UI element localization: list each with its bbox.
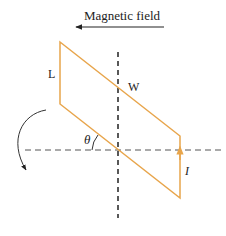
magnetic-field-label: Magnetic field: [84, 8, 161, 23]
current-label: I: [184, 164, 190, 178]
length-label: L: [48, 67, 55, 81]
rotation-arrow-icon: [18, 110, 46, 170]
current-loop: [60, 42, 180, 198]
angle-label: θ: [84, 132, 91, 147]
coil-diagram: Magnetic field L W θ I: [0, 0, 226, 236]
width-label: W: [128, 80, 140, 94]
angle-arc: [92, 135, 98, 150]
